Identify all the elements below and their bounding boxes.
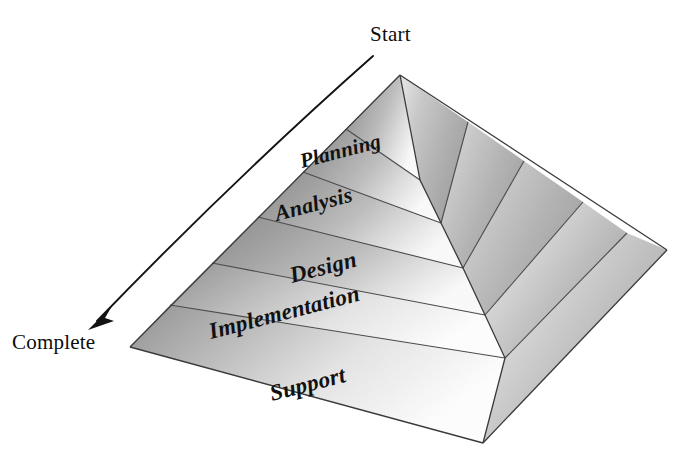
complete-label: Complete <box>12 330 95 355</box>
pyramid-diagram: Planning Analysis Design Implementation … <box>0 0 685 475</box>
progress-arrow-head <box>88 306 114 330</box>
start-label: Start <box>370 22 411 47</box>
pyramid-graphic: Planning Analysis Design Implementation … <box>0 0 685 475</box>
